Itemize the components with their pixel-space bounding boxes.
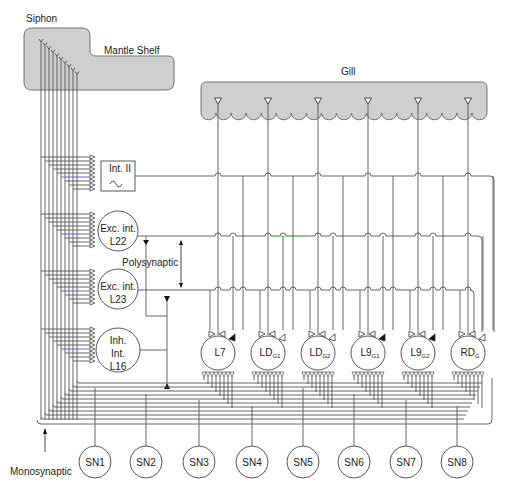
sensory-bus <box>73 385 480 387</box>
synapse-fan-icon <box>352 372 356 377</box>
synapse-fan-icon <box>414 372 418 377</box>
motor-neuron-label: L7 <box>202 347 238 362</box>
exc-l22-label-2: L22 <box>96 236 140 248</box>
synapse-fan-icon <box>260 372 264 377</box>
synapse-fan-icon <box>90 212 95 216</box>
synapse-fan-icon <box>90 163 95 167</box>
synapse-fan-icon <box>276 372 280 377</box>
motor-neuron-label: L9G1 <box>352 347 388 362</box>
motor-neuron-label: RDG <box>452 347 488 362</box>
gill-label: Gill <box>341 67 355 77</box>
synapse-fan-icon <box>214 372 218 377</box>
sensory-bus <box>49 409 468 411</box>
synapse-fan-icon <box>90 216 95 220</box>
polysynaptic-label: Polysynaptic <box>122 258 178 268</box>
synapse-fan-icon <box>402 372 406 377</box>
synapse-fan-icon <box>90 285 95 289</box>
excitatory-synapse-icon <box>279 334 285 341</box>
sensory-neuron-label: SN8 <box>441 457 473 469</box>
sensory-bus <box>45 413 466 415</box>
synapse-fan-icon <box>206 372 210 377</box>
synapse-fan-icon <box>430 372 434 377</box>
synapse-fan-icon <box>464 372 468 377</box>
synapse-fan-icon <box>90 331 95 335</box>
synapse-fan-icon <box>410 372 414 377</box>
synapse-fan-icon <box>230 372 234 377</box>
synapse-fan-icon <box>90 293 95 297</box>
synapse-fan-icon <box>364 372 368 377</box>
synapse-fan-icon <box>330 372 334 377</box>
excitatory-synapse-icon <box>329 334 335 341</box>
synapse-fan-icon <box>376 372 380 377</box>
synapse-fan-icon <box>452 372 456 377</box>
synapse-fan-icon <box>426 372 430 377</box>
int-ii-label: Int. II <box>104 163 136 175</box>
synapse-fan-icon <box>90 232 95 236</box>
synapse-fan-icon <box>90 175 95 179</box>
synapse-fan-icon <box>90 355 95 359</box>
synapse-fan-icon <box>326 372 330 377</box>
synapse-fan-icon <box>90 289 95 293</box>
sensory-neuron-label: SN6 <box>338 457 370 469</box>
synapse-fan-icon <box>480 372 484 377</box>
synapse-fan-icon <box>90 179 95 183</box>
sensory-bus <box>77 381 482 383</box>
synapse-fan-icon <box>418 372 422 377</box>
mantle-shelf-label: Mantle Shelf <box>104 46 160 56</box>
circuit-svg <box>0 0 507 493</box>
sensory-neuron-label: SN2 <box>130 457 162 469</box>
synapse-fan-icon <box>252 372 256 377</box>
inhibitory-synapse-icon <box>229 334 235 341</box>
synapse-fan-icon <box>90 359 95 363</box>
synapse-fan-icon <box>272 372 276 377</box>
inhibitory-synapse-icon <box>143 240 149 245</box>
exc-l23-label-1: Exc. int. <box>96 281 140 293</box>
synapse-fan-icon <box>90 167 95 171</box>
siphon-label: Siphon <box>26 14 57 24</box>
synapse-fan-icon <box>256 372 260 377</box>
inhibitory-synapse-icon <box>379 334 385 341</box>
sensory-bus <box>41 417 464 419</box>
synapse-fan-icon <box>356 372 360 377</box>
synapse-fan-icon <box>90 220 95 224</box>
synapse-fan-icon <box>380 372 384 377</box>
inh-l16-label-2: Int. <box>96 348 140 360</box>
sensory-bus <box>57 401 472 403</box>
synapse-fan-icon <box>368 372 372 377</box>
inh-l16-label-1: Inh. <box>96 335 140 347</box>
synapse-fan-icon <box>90 236 95 240</box>
exc-l23-label-2: L23 <box>96 294 140 306</box>
synapse-fan-icon <box>90 240 95 244</box>
synapse-fan-icon <box>90 343 95 347</box>
exc-l22-label-1: Exc. int. <box>96 223 140 235</box>
synapse-fan-icon <box>476 372 480 377</box>
inh-l16-label-3: L16 <box>96 361 140 373</box>
inhibitory-synapse-icon <box>429 334 435 341</box>
motor-neuron-label: LDG2 <box>302 347 338 362</box>
synapse-fan-icon <box>360 372 364 377</box>
sensory-neuron-label: SN7 <box>390 457 422 469</box>
synapse-fan-icon <box>460 372 464 377</box>
sensory-bus <box>61 397 474 399</box>
synapse-fan-icon <box>322 372 326 377</box>
gill-organ <box>201 82 487 120</box>
synapse-fan-icon <box>90 159 95 163</box>
synapse-fan-icon <box>202 372 206 377</box>
siphon-mantle-organ <box>24 28 174 90</box>
sensory-neuron-label: SN3 <box>183 457 215 469</box>
synapse-fan-icon <box>472 372 476 377</box>
arrow-head-icon <box>43 428 47 434</box>
synapse-fan-icon <box>90 277 95 281</box>
synapse-fan-icon <box>90 327 95 331</box>
motor-neuron-label: LDG1 <box>252 347 288 362</box>
synapse-fan-icon <box>422 372 426 377</box>
synapse-fan-icon <box>90 224 95 228</box>
synapse-fan-icon <box>456 372 460 377</box>
synapse-fan-icon <box>90 297 95 301</box>
synapse-fan-icon <box>306 372 310 377</box>
synapse-fan-icon <box>90 155 95 159</box>
synapse-fan-icon <box>310 372 314 377</box>
synapse-fan-icon <box>264 372 268 377</box>
sensory-bus <box>69 389 478 391</box>
synapse-fan-icon <box>90 351 95 355</box>
